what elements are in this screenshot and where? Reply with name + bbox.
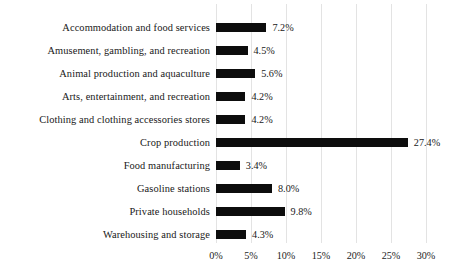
bar-row: Gasoline stations8.0% [0, 177, 459, 200]
bar [216, 138, 408, 147]
bar-value-label: 9.8% [291, 200, 312, 223]
category-label: Private households [129, 200, 210, 223]
category-label: Arts, entertainment, and recreation [62, 85, 210, 108]
x-axis-tick-label: 10% [277, 247, 296, 265]
bar-value-label: 27.4% [414, 131, 440, 154]
x-axis-tick-label: 5% [244, 247, 258, 265]
category-label: Gasoline stations [137, 177, 210, 200]
bar-value-label: 4.5% [254, 39, 275, 62]
bar-and-value: 8.0% [216, 177, 299, 200]
bar [216, 161, 240, 170]
bar-row: Warehousing and storage4.3% [0, 223, 459, 246]
bar-row: Crop production27.4% [0, 131, 459, 154]
bar-row: Private households9.8% [0, 200, 459, 223]
bar-and-value: 27.4% [216, 131, 440, 154]
x-axis: 0%5%10%15%20%25%30% [0, 247, 459, 265]
bar [216, 46, 248, 55]
x-axis-tick-label: 30% [417, 247, 436, 265]
x-axis-tick-label: 15% [312, 247, 331, 265]
bar-and-value: 4.2% [216, 108, 273, 131]
category-label: Amusement, gambling, and recreation [48, 39, 211, 62]
bar-row: Amusement, gambling, and recreation4.5% [0, 39, 459, 62]
bar [216, 69, 255, 78]
category-label: Crop production [140, 131, 210, 154]
category-label: Animal production and aquaculture [59, 62, 210, 85]
bar [216, 23, 266, 32]
bar-and-value: 9.8% [216, 200, 312, 223]
x-axis-tick-label: 20% [347, 247, 366, 265]
bar [216, 230, 246, 239]
category-label: Warehousing and storage [103, 223, 210, 246]
bar [216, 115, 245, 124]
x-axis-tick-label: 0% [209, 247, 223, 265]
bar-row: Accommodation and food services7.2% [0, 16, 459, 39]
bar [216, 184, 272, 193]
x-axis-tick-label: 25% [382, 247, 401, 265]
category-label: Accommodation and food services [62, 16, 210, 39]
bar [216, 207, 285, 216]
bar-and-value: 5.6% [216, 62, 282, 85]
bar-value-label: 8.0% [278, 177, 299, 200]
bar [216, 92, 245, 101]
bar-and-value: 4.5% [216, 39, 275, 62]
bar-value-label: 4.2% [251, 108, 272, 131]
bar-value-label: 4.2% [251, 85, 272, 108]
bar-row: Arts, entertainment, and recreation4.2% [0, 85, 459, 108]
bar-value-label: 3.4% [246, 154, 267, 177]
bar-and-value: 7.2% [216, 16, 294, 39]
category-label: Food manufacturing [124, 154, 210, 177]
bar-value-label: 5.6% [261, 62, 282, 85]
bar-chart: Accommodation and food services7.2%Amuse… [0, 0, 459, 272]
bar-row: Food manufacturing3.4% [0, 154, 459, 177]
category-label: Clothing and clothing accessories stores [39, 108, 210, 131]
bar-value-label: 7.2% [272, 16, 293, 39]
bar-row: Clothing and clothing accessories stores… [0, 108, 459, 131]
bar-and-value: 4.2% [216, 85, 273, 108]
bar-row: Animal production and aquaculture5.6% [0, 62, 459, 85]
bar-and-value: 3.4% [216, 154, 267, 177]
bar-value-label: 4.3% [252, 223, 273, 246]
bar-and-value: 4.3% [216, 223, 273, 246]
